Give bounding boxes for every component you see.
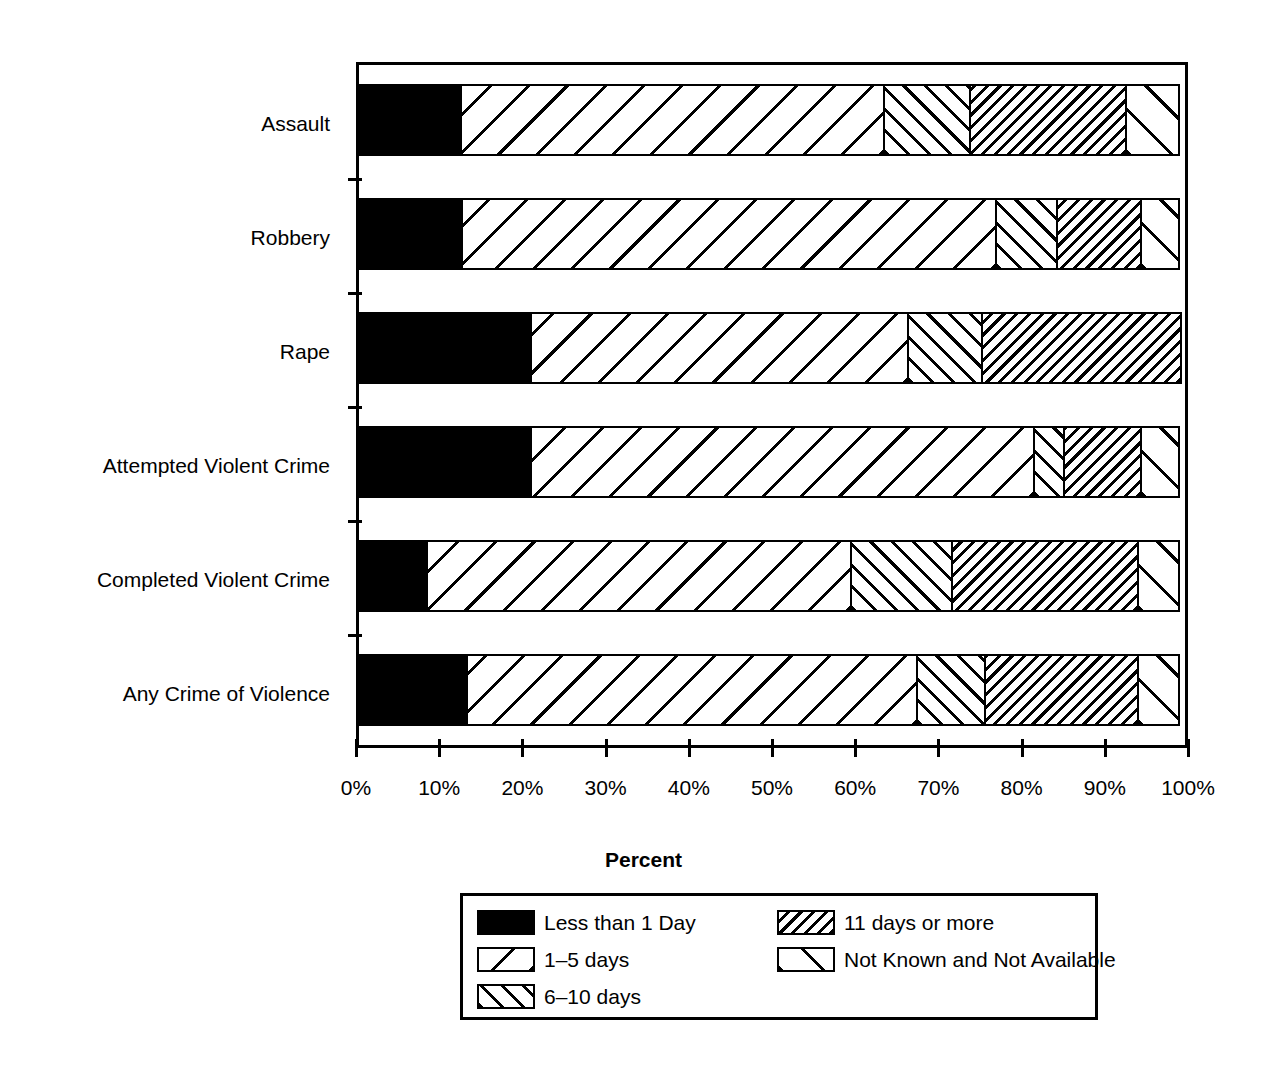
segment-not-known bbox=[1140, 198, 1180, 270]
segment-1-5-days bbox=[461, 198, 997, 270]
segment-6-10-days bbox=[916, 654, 986, 726]
x-axis-tick-label: 100% bbox=[1161, 776, 1215, 800]
legend-swatch-diagonal-medium-icon bbox=[477, 984, 535, 1009]
legend-swatch-diagonal-dense-icon bbox=[777, 910, 835, 935]
category-axis-labels: Assault Robbery Rape Attempted Violent C… bbox=[0, 62, 344, 748]
segment-6-10-days bbox=[1033, 426, 1065, 498]
category-label-any-crime-of-violence: Any Crime of Violence bbox=[123, 682, 330, 706]
plot-frame bbox=[356, 62, 1188, 748]
segment-less-than-1-day bbox=[356, 540, 428, 612]
legend: Less than 1 Day 11 days or more 1–5 days… bbox=[460, 893, 1098, 1020]
x-axis-tick-label: 10% bbox=[418, 776, 460, 800]
segment-not-known bbox=[1125, 84, 1180, 156]
legend-label: 11 days or more bbox=[844, 911, 994, 934]
stacked-bar bbox=[356, 84, 1180, 156]
legend-item-not-known-and-not-available: Not Known and Not Available bbox=[777, 947, 1116, 972]
x-axis-tick bbox=[521, 739, 524, 757]
category-label-assault: Assault bbox=[261, 112, 330, 136]
x-axis-tick bbox=[1104, 739, 1107, 757]
legend-item-less-than-1-day: Less than 1 Day bbox=[477, 910, 777, 935]
x-axis-tick bbox=[355, 739, 358, 757]
segment-less-than-1-day bbox=[356, 654, 468, 726]
category-label-attempted-violent-crime: Attempted Violent Crime bbox=[103, 454, 330, 478]
legend-item-6-10-days: 6–10 days bbox=[477, 984, 777, 1009]
segment-1-5-days bbox=[466, 654, 918, 726]
segment-6-10-days bbox=[850, 540, 952, 612]
segment-11-days-or-more bbox=[951, 540, 1139, 612]
segment-less-than-1-day bbox=[356, 198, 463, 270]
x-axis-tick-label: 30% bbox=[585, 776, 627, 800]
legend-item-11-days-or-more: 11 days or more bbox=[777, 910, 1116, 935]
plot-area bbox=[356, 62, 1188, 748]
segment-less-than-1-day bbox=[356, 426, 532, 498]
segment-6-10-days bbox=[907, 312, 984, 384]
stacked-bar bbox=[356, 198, 1180, 270]
category-label-robbery: Robbery bbox=[251, 226, 330, 250]
segment-6-10-days bbox=[995, 198, 1058, 270]
x-axis-tick-label: 60% bbox=[834, 776, 876, 800]
segment-not-known bbox=[1140, 426, 1180, 498]
category-label-completed-violent-crime: Completed Violent Crime bbox=[97, 568, 330, 592]
segment-11-days-or-more bbox=[969, 84, 1127, 156]
category-label-rape: Rape bbox=[280, 340, 330, 364]
legend-label: 6–10 days bbox=[544, 985, 641, 1008]
x-axis-tick-label: 40% bbox=[668, 776, 710, 800]
segment-1-5-days bbox=[460, 84, 885, 156]
x-axis-tick bbox=[438, 739, 441, 757]
x-axis-tick bbox=[854, 739, 857, 757]
x-axis-tick-label: 90% bbox=[1084, 776, 1126, 800]
legend-swatch-diagonal-wide-icon bbox=[477, 947, 535, 972]
legend-swatch-diagonal-sparse-icon bbox=[777, 947, 835, 972]
segment-not-known bbox=[1137, 654, 1180, 726]
x-axis-tick-label: 70% bbox=[917, 776, 959, 800]
x-axis-tick bbox=[937, 739, 940, 757]
x-axis-tick bbox=[771, 739, 774, 757]
segment-11-days-or-more bbox=[981, 312, 1182, 384]
stacked-bar bbox=[356, 312, 1182, 384]
legend-label: 1–5 days bbox=[544, 948, 629, 971]
x-axis-tick bbox=[1187, 739, 1190, 757]
segment-11-days-or-more bbox=[984, 654, 1139, 726]
stacked-bar bbox=[356, 654, 1180, 726]
segment-6-10-days bbox=[883, 84, 971, 156]
x-axis-tick-label: 20% bbox=[501, 776, 543, 800]
segment-not-known bbox=[1137, 540, 1180, 612]
x-axis-tick bbox=[688, 739, 691, 757]
legend-item-1-5-days: 1–5 days bbox=[477, 947, 777, 972]
x-axis-tick bbox=[1021, 739, 1024, 757]
segment-1-5-days bbox=[530, 426, 1035, 498]
x-axis-tick bbox=[605, 739, 608, 757]
segment-11-days-or-more bbox=[1063, 426, 1142, 498]
legend-label: Less than 1 Day bbox=[544, 911, 696, 934]
x-axis-tick-label: 50% bbox=[751, 776, 793, 800]
x-axis-title: Percent bbox=[0, 848, 1287, 872]
segment-11-days-or-more bbox=[1056, 198, 1142, 270]
segment-less-than-1-day bbox=[356, 84, 462, 156]
stacked-bar bbox=[356, 426, 1180, 498]
x-axis-tick-label: 0% bbox=[341, 776, 371, 800]
legend-label: Not Known and Not Available bbox=[844, 948, 1116, 971]
stacked-bar bbox=[356, 540, 1180, 612]
segment-1-5-days bbox=[426, 540, 853, 612]
x-axis-tick-label: 80% bbox=[1001, 776, 1043, 800]
stacked-bar-chart: Assault Robbery Rape Attempted Violent C… bbox=[0, 0, 1287, 1067]
segment-1-5-days bbox=[530, 312, 909, 384]
segment-less-than-1-day bbox=[356, 312, 532, 384]
legend-swatch-solid-black-icon bbox=[477, 910, 535, 935]
